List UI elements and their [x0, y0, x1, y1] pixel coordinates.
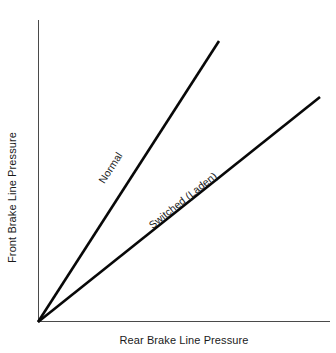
y-axis-label-text: Front Brake Line Pressure — [0, 0, 24, 353]
y-axis-label: Front Brake Line Pressure — [0, 0, 24, 353]
brake-pressure-diagram: Front Brake Line Pressure Rear Brake Lin… — [0, 0, 336, 353]
data-line-normal — [38, 41, 219, 322]
x-axis-label: Rear Brake Line Pressure — [38, 334, 330, 346]
plot-area — [0, 0, 336, 353]
